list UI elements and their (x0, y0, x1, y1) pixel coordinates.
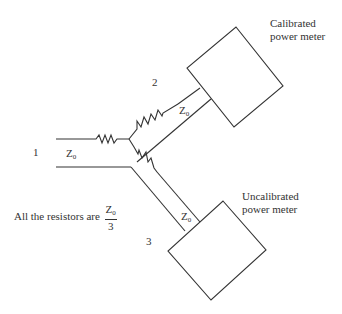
uncalibrated-line1: Uncalibrated (242, 190, 299, 203)
fraction-numerator: Z0 (105, 203, 117, 220)
calibrated-meter-label: Calibrated power meter (270, 17, 325, 43)
calibrated-line2: power meter (270, 30, 325, 43)
port3-impedance-label: Z0 (181, 210, 191, 227)
power-divider-diagram: 1 Z0 2 Z0 3 Z0 Calibrated power meter Un… (0, 0, 342, 314)
port1-label: 1 (33, 146, 39, 159)
port1-impedance-label: Z0 (66, 147, 76, 164)
z-symbol: Z (66, 147, 73, 159)
circuit-drawing (0, 0, 342, 314)
z-subscript: 0 (73, 153, 77, 161)
z-subscript: 0 (188, 216, 192, 224)
fraction-denominator: 3 (105, 220, 117, 232)
z-symbol: Z (181, 210, 188, 222)
port2-upper-conductor (178, 88, 200, 104)
calibrated-line1: Calibrated (270, 17, 325, 30)
z0-over-3-fraction: Z0 3 (105, 203, 117, 232)
port1-upper-line (56, 135, 129, 143)
z-subscript: 0 (186, 110, 190, 118)
resistor-to-port3 (129, 139, 157, 172)
uncalibrated-meter-label: Uncalibrated power meter (242, 190, 299, 216)
port2-lower-conductor (137, 99, 211, 162)
uncalibrated-line2: power meter (242, 203, 299, 216)
resistor-note-text: All the resistors are (14, 210, 100, 222)
z-subscript: 0 (112, 209, 116, 217)
port3-inner-conductor (157, 172, 200, 222)
z-symbol: Z (179, 104, 186, 116)
port2-impedance-label: Z0 (179, 104, 189, 121)
port3-outer-conductor (131, 167, 185, 231)
port2-label: 2 (152, 76, 158, 89)
calibrated-power-meter-box (187, 27, 283, 127)
port3-label: 3 (146, 235, 152, 248)
resistor-note: All the resistors are Z0 3 (14, 203, 117, 232)
